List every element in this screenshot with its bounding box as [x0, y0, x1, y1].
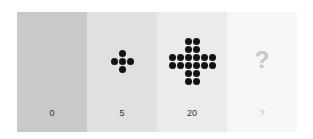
- dot-icon: [193, 38, 200, 45]
- dot-icon: [193, 70, 200, 77]
- panel-label: 5: [87, 108, 157, 118]
- dot-icon: [201, 62, 208, 69]
- dot-icon: [193, 78, 200, 85]
- dot-icon: [119, 50, 126, 57]
- sequence-strip: 0 5 20 ? ?: [17, 12, 297, 132]
- dot-cross-large: [157, 34, 227, 88]
- dot-cross-small: [87, 34, 157, 88]
- dot-icon: [209, 54, 216, 61]
- dot-icon: [193, 46, 200, 53]
- panel-unknown: ? ?: [227, 12, 297, 132]
- panel-label: 20: [157, 108, 227, 118]
- panel-20: 20: [157, 12, 227, 132]
- question-mark-icon: ?: [227, 46, 297, 74]
- dot-icon: [185, 62, 192, 69]
- panel-label: ?: [227, 108, 297, 118]
- dot-icon: [119, 66, 126, 73]
- dot-icon: [185, 46, 192, 53]
- dot-icon: [119, 58, 126, 65]
- dot-icon: [185, 38, 192, 45]
- dot-icon: [209, 62, 216, 69]
- dot-icon: [193, 62, 200, 69]
- panel-label: 0: [17, 108, 87, 118]
- dot-icon: [193, 54, 200, 61]
- dot-icon: [111, 58, 118, 65]
- dot-icon: [185, 54, 192, 61]
- dot-icon: [201, 54, 208, 61]
- dot-icon: [177, 62, 184, 69]
- dot-icon: [177, 54, 184, 61]
- dot-icon: [127, 58, 134, 65]
- dot-icon: [185, 78, 192, 85]
- dot-icon: [169, 54, 176, 61]
- panel-5: 5: [87, 12, 157, 132]
- dot-icon: [185, 70, 192, 77]
- panel-0: 0: [17, 12, 87, 132]
- dot-icon: [169, 62, 176, 69]
